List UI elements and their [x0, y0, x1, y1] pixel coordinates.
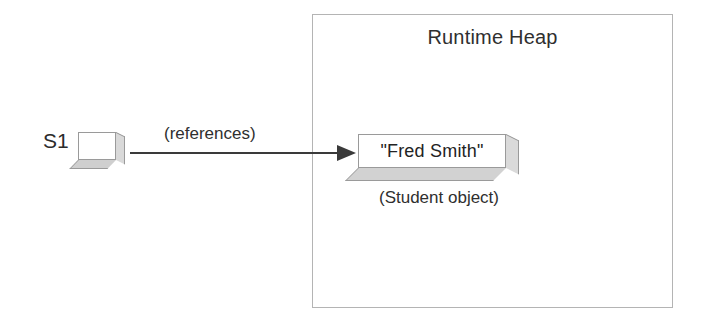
- cube-icon: [78, 132, 125, 170]
- diagram-canvas: Runtime Heap S1 (references) "Fred Smith…: [0, 0, 707, 322]
- object-caption: (Student object): [358, 188, 520, 208]
- slab-icon: "Fred Smith": [358, 134, 520, 182]
- runtime-heap-title: Runtime Heap: [312, 26, 673, 49]
- arrow-label: (references): [164, 124, 256, 144]
- slab-side-face: [506, 134, 519, 175]
- cube-front-face: [78, 132, 116, 160]
- cube-bottom-face: [69, 160, 116, 169]
- cube-side-face: [116, 132, 125, 164]
- object-value-text: "Fred Smith": [380, 141, 483, 162]
- reference-variable-label: S1: [43, 130, 69, 151]
- slab-bottom-face: [345, 168, 506, 181]
- slab-front-face: "Fred Smith": [358, 134, 506, 168]
